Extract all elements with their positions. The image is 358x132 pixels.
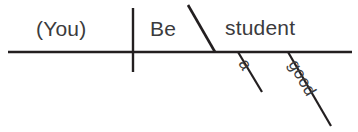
sentence-diagram: (You) Be student a good	[0, 0, 358, 132]
predicate-nominative-word: student	[225, 17, 295, 38]
verb-word: Be	[150, 18, 176, 39]
predicate-nominative-slant-rule	[188, 5, 215, 52]
subject-word: (You)	[36, 18, 86, 39]
